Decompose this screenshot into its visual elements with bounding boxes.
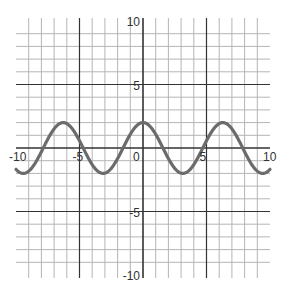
x-tick-label: -10 <box>9 150 27 164</box>
y-tick-label: 10 <box>127 15 141 29</box>
x-tick-label: 5 <box>200 150 207 164</box>
x-tick-label: 0 <box>133 150 140 164</box>
chart-plot-area: -10-50510105-5-10 <box>0 0 283 293</box>
x-tick-label: -5 <box>73 150 84 164</box>
x-tick-label: 10 <box>263 150 277 164</box>
y-tick-label: -5 <box>129 206 140 220</box>
y-tick-label: 5 <box>133 79 140 93</box>
y-tick-label: -10 <box>123 269 141 283</box>
